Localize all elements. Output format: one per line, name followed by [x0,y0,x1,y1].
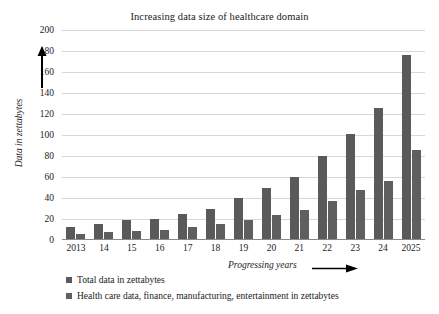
y-axis-arrow-icon [36,46,48,88]
plot-area [62,30,425,240]
x-axis-tick-label: 15 [118,243,146,253]
bar[interactable] [328,201,337,240]
bar[interactable] [374,108,383,240]
legend-label: Health care data, finance, manufacturing… [77,291,339,301]
bar[interactable] [94,224,103,240]
y-axis-tick-label: 100 [40,130,54,140]
x-axis-tick-label: 16 [146,243,174,253]
bar[interactable] [178,214,187,240]
bar[interactable] [290,177,299,240]
x-axis-tick-label: 17 [174,243,202,253]
legend-item[interactable]: Total data in zettabytes [66,272,426,288]
chart-title: Increasing data size of healthcare domai… [0,11,439,22]
bar[interactable] [412,150,421,240]
bar-group [313,30,341,240]
y-axis-tick-labels: 020406080100120140160180200 [0,30,58,240]
y-axis-tick-label: 140 [40,88,54,98]
x-axis-tick-label: 22 [313,243,341,253]
bar[interactable] [206,209,215,241]
bar-group [146,30,174,240]
x-axis-title: Progressing years [228,260,297,270]
x-axis-tick-label: 19 [230,243,258,253]
bar[interactable] [384,181,393,240]
bar-group [257,30,285,240]
bar[interactable] [234,198,243,240]
legend-item[interactable]: Health care data, finance, manufacturing… [66,288,426,304]
bar[interactable] [402,55,411,240]
x-axis-tick-label: 23 [341,243,369,253]
bar-group [202,30,230,240]
bar-group [230,30,258,240]
bar[interactable] [244,220,253,240]
chart-legend: Total data in zettabytesHealth care data… [66,272,426,304]
chart-figure: Increasing data size of healthcare domai… [0,0,439,314]
y-axis-tick-label: 20 [45,214,55,224]
x-axis-tick-labels: 201314151617181920212223242025 [62,243,425,253]
y-axis-tick-label: 80 [45,151,55,161]
x-axis-tick-label: 2025 [397,243,425,253]
bar[interactable] [272,215,281,240]
bar-group [397,30,425,240]
bar-group [118,30,146,240]
x-axis-tick-label: 2013 [62,243,90,253]
bar-group [285,30,313,240]
bar[interactable] [122,220,131,240]
bars-layer [62,30,425,240]
y-axis-tick-label: 200 [40,25,54,35]
x-axis-tick-label: 21 [285,243,313,253]
bar[interactable] [300,210,309,240]
bar-group [90,30,118,240]
bar-group [369,30,397,240]
y-axis-tick-label: 40 [45,193,55,203]
bar[interactable] [318,156,327,240]
bar[interactable] [356,190,365,240]
y-axis-title: Data in zettabytes [14,85,24,181]
x-axis-tick-label: 14 [90,243,118,253]
bar[interactable] [150,219,159,240]
y-axis-tick-label: 120 [40,109,54,119]
bar[interactable] [262,188,271,241]
bar-group [62,30,90,240]
legend-swatch-icon [66,277,72,283]
x-axis-tick-label: 20 [257,243,285,253]
legend-label: Total data in zettabytes [77,275,165,285]
legend-swatch-icon [66,293,72,299]
bar[interactable] [216,224,225,240]
y-axis-tick-label: 0 [49,235,54,245]
bar-group [174,30,202,240]
x-axis-line [62,239,425,240]
bar[interactable] [346,134,355,240]
x-axis-tick-label: 24 [369,243,397,253]
bar-group [341,30,369,240]
y-axis-tick-label: 60 [45,172,55,182]
x-axis-tick-label: 18 [202,243,230,253]
